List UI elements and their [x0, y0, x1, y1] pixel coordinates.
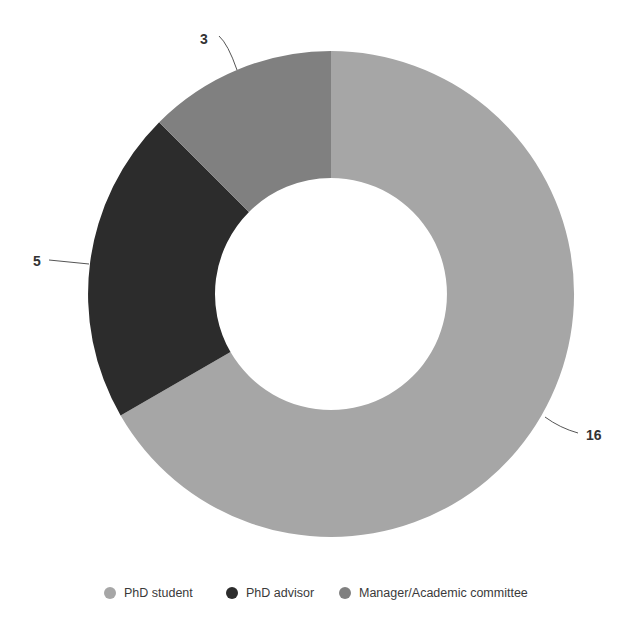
data-label-manager: 3: [200, 31, 208, 47]
leader-line-advisor: [49, 260, 89, 264]
legend-item-manager-academic-committee[interactable]: Manager/Academic committee: [339, 582, 528, 604]
legend-dot-icon: [226, 587, 238, 599]
leader-line-student: [545, 417, 578, 433]
leader-line-manager: [219, 36, 237, 70]
donut-chart: 3 5 16: [0, 0, 642, 580]
legend-item-phd-student[interactable]: PhD student: [104, 582, 193, 604]
legend-label: PhD student: [124, 586, 193, 600]
legend-label: PhD advisor: [246, 586, 314, 600]
legend-dot-icon: [104, 587, 116, 599]
data-label-student: 16: [586, 427, 602, 443]
legend-dot-icon: [339, 587, 351, 599]
data-label-advisor: 5: [33, 253, 41, 269]
legend-item-phd-advisor[interactable]: PhD advisor: [226, 582, 314, 604]
legend-label: Manager/Academic committee: [359, 586, 528, 600]
chart-legend: PhD student PhD advisor Manager/Academic…: [0, 582, 642, 604]
